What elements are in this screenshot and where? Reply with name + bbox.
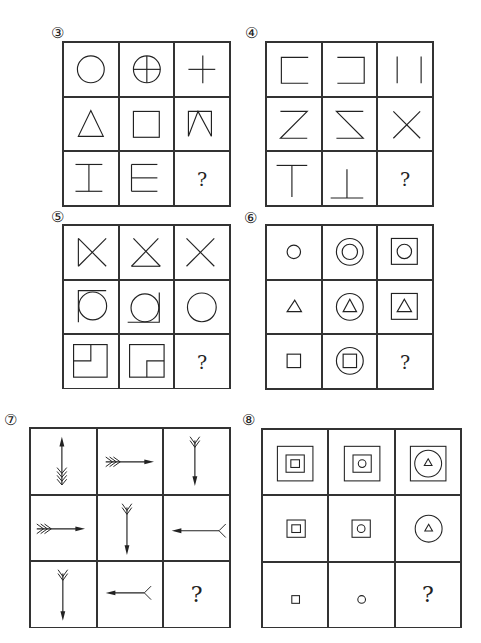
puzzle-7-label: ⑦ xyxy=(4,413,17,428)
z-shape-icon xyxy=(267,98,321,151)
puzzle-8-cell-8 xyxy=(328,562,394,628)
puzzle-4-cell-8 xyxy=(322,151,378,206)
x-closed-left-icon xyxy=(64,226,118,279)
puzzle-4-grid: ? xyxy=(265,41,434,207)
puzzle-5-cell-1 xyxy=(63,225,119,280)
puzzle-8-cell-4 xyxy=(262,495,328,561)
circle-in-square-in-square-icon xyxy=(329,430,393,494)
circle-cross-icon xyxy=(120,43,174,96)
square-in-square-in-square-icon xyxy=(263,430,327,494)
inverted-t-shape-icon xyxy=(323,152,377,205)
puzzle-3-cell-1 xyxy=(63,42,119,97)
puzzle-6-cell-7 xyxy=(266,334,322,389)
puzzle-4-answer-cell[interactable]: ? xyxy=(377,151,433,206)
triangle-in-square-icon xyxy=(378,281,432,334)
circle-icon xyxy=(175,281,229,334)
puzzle-5-label: ⑤ xyxy=(51,210,64,225)
arrow-down-2-feathers-icon xyxy=(164,429,229,494)
question-mark: ? xyxy=(197,168,207,190)
x-shape-icon xyxy=(175,226,229,279)
puzzle-6-cell-1 xyxy=(266,225,322,280)
arrow-up-4-feathers-icon xyxy=(31,429,96,494)
puzzle-5-cell-3 xyxy=(174,225,230,280)
puzzle-6-answer-cell[interactable]: ? xyxy=(377,334,433,389)
puzzle-4-cell-4 xyxy=(266,97,322,152)
circle-bottom-corners-icon xyxy=(120,281,174,334)
open-square-v-icon xyxy=(175,98,229,151)
puzzle-8-cell-5 xyxy=(328,495,394,561)
puzzle-8-cell-3 xyxy=(395,429,461,495)
puzzle-8-cell-7 xyxy=(262,562,328,628)
puzzle-5-grid: ? xyxy=(62,224,231,389)
arrow-right-3-feathers-icon xyxy=(31,496,96,561)
small-circle-icon xyxy=(329,563,393,627)
circle-in-square-icon xyxy=(329,496,393,560)
puzzle-3-cell-5 xyxy=(119,97,175,152)
puzzle-8-grid: ? xyxy=(261,428,462,628)
question-mark: ? xyxy=(400,168,410,190)
puzzle-4-cell-6 xyxy=(377,97,433,152)
triangle-in-circle-icon xyxy=(323,281,377,334)
puzzle-6-cell-6 xyxy=(377,280,433,335)
reversed-z-shape-icon xyxy=(323,98,377,151)
puzzle-6-cell-2 xyxy=(322,225,378,280)
puzzle-3-answer-cell[interactable]: ? xyxy=(174,151,230,206)
puzzle-6-label: ⑥ xyxy=(244,211,257,226)
triangle-in-circle-in-square-icon xyxy=(396,430,460,494)
puzzle-4-cell-5 xyxy=(322,97,378,152)
puzzle-8-answer-cell[interactable]: ? xyxy=(395,562,461,628)
e-shape-icon xyxy=(120,152,174,205)
bracket-left-icon xyxy=(267,43,321,96)
arrow-down-2-feathers-icon xyxy=(98,496,163,561)
puzzle-6-cell-4 xyxy=(266,280,322,335)
i-shape-icon xyxy=(64,152,118,205)
puzzle-7-grid: ? xyxy=(29,427,231,628)
x-closed-bottom-icon xyxy=(120,226,174,279)
puzzle-8-cell-6 xyxy=(395,495,461,561)
puzzle-5-answer-cell[interactable]: ? xyxy=(174,334,230,389)
square-inner-top-left-icon xyxy=(64,335,118,388)
puzzle-3-cell-2 xyxy=(119,42,175,97)
circle-icon xyxy=(64,43,118,96)
puzzle-7-cell-4 xyxy=(30,495,97,562)
puzzle-7-cell-8 xyxy=(97,561,164,628)
question-mark: ? xyxy=(191,582,203,607)
puzzle-8-label: ⑧ xyxy=(242,413,255,428)
puzzle-6-cell-3 xyxy=(377,225,433,280)
plus-icon xyxy=(175,43,229,96)
square-inner-bottom-right-icon xyxy=(120,335,174,388)
question-mark: ? xyxy=(197,351,207,373)
square-in-circle-icon xyxy=(323,335,377,388)
puzzle-5-cell-2 xyxy=(119,225,175,280)
puzzle-6-cell-8 xyxy=(322,334,378,389)
puzzle-7-cell-6 xyxy=(163,495,230,562)
puzzle-4-cell-2 xyxy=(322,42,378,97)
puzzle-7-cell-5 xyxy=(97,495,164,562)
puzzle-3-cell-8 xyxy=(119,151,175,206)
puzzle-3-grid: ? xyxy=(62,41,231,207)
puzzle-5-cell-5 xyxy=(119,280,175,335)
two-vertical-lines-icon xyxy=(378,43,432,96)
puzzle-4-label: ④ xyxy=(245,26,258,41)
puzzle-4-cell-3 xyxy=(377,42,433,97)
x-shape-icon xyxy=(378,98,432,151)
circle-top-left-corner-icon xyxy=(64,281,118,334)
puzzle-8-cell-2 xyxy=(328,429,394,495)
arrow-left-1-feather-icon xyxy=(98,562,163,627)
puzzle-7-cell-3 xyxy=(163,428,230,495)
question-mark: ? xyxy=(400,351,410,373)
puzzle-4-cell-7 xyxy=(266,151,322,206)
puzzle-8-cell-1 xyxy=(262,429,328,495)
small-triangle-icon xyxy=(267,281,321,334)
puzzle-3-label: ③ xyxy=(51,26,64,41)
t-shape-icon xyxy=(267,152,321,205)
bracket-right-icon xyxy=(323,43,377,96)
small-square-icon xyxy=(267,335,321,388)
puzzle-7-cell-1 xyxy=(30,428,97,495)
puzzle-6-grid: ? xyxy=(265,224,434,390)
puzzle-7-answer-cell[interactable]: ? xyxy=(163,561,230,628)
puzzle-3-cell-3 xyxy=(174,42,230,97)
circle-in-square-icon xyxy=(378,226,432,279)
puzzle-5-cell-8 xyxy=(119,334,175,389)
arrow-down-2-feathers-icon xyxy=(31,562,96,627)
